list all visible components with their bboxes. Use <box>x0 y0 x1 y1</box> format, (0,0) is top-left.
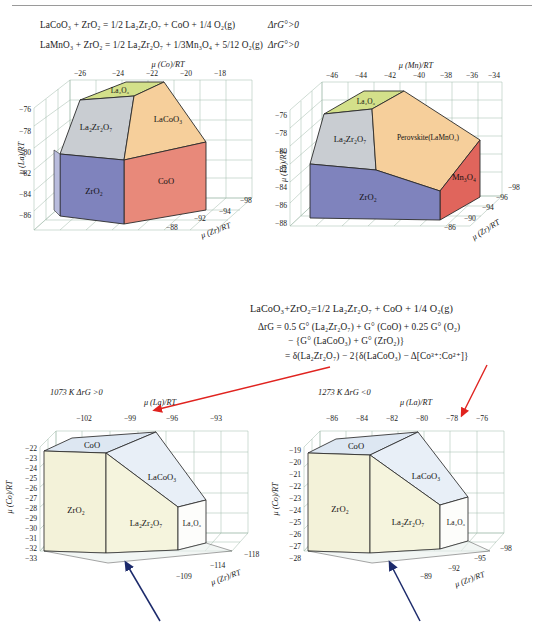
center-headline: LaCoO₃+ZrO₂=1/2 La₂Zr₂O₇ + CoO + 1/4 O₂(… <box>250 303 453 314</box>
svg-text:−99: −99 <box>124 414 136 423</box>
svg-text:−19: −19 <box>289 446 301 455</box>
svg-text:−80: −80 <box>19 148 31 157</box>
svg-text:−94: −94 <box>219 207 231 216</box>
phase-label-zro2: ZrO₂ <box>85 186 102 196</box>
svg-text:−40: −40 <box>413 71 425 80</box>
phase-label-la2zr2o7: La₂Zr₂O₇ <box>392 517 424 527</box>
svg-text:−28: −28 <box>289 554 301 563</box>
svg-text:−38: −38 <box>440 71 452 80</box>
svg-text:−31: −31 <box>25 534 37 543</box>
svg-text:−24: −24 <box>25 464 37 473</box>
chart-top-right: μ (Mn)/RT −46 −44 −42 −40 −38 −36 −34 μ … <box>276 58 538 283</box>
svg-text:−88: −88 <box>166 223 178 232</box>
svg-text:−44: −44 <box>355 71 367 80</box>
x-axis-ticks-top-left: −26 −24 −22 −20 −18 <box>74 69 226 78</box>
phase-label-la2o3: La₂O₃ <box>111 86 130 95</box>
phase-label-lacoo3: LaCoO₃ <box>148 472 176 482</box>
svg-text:−21: −21 <box>289 470 301 479</box>
x-axis-ticks-top-right: −46 −44 −42 −40 −38 −36 −34 <box>326 71 500 80</box>
svg-text:−78: −78 <box>275 129 287 138</box>
svg-text:−109: −109 <box>176 572 192 581</box>
reaction-1-gibbs: ΔrG°>0 <box>268 20 299 30</box>
phase-label-lacoo3: LaCoO₃ <box>154 114 182 124</box>
svg-text:−78: −78 <box>446 414 458 423</box>
svg-text:−98: −98 <box>240 196 252 205</box>
svg-text:−24: −24 <box>289 506 301 515</box>
svg-text:−86: −86 <box>19 211 31 220</box>
center-line-1: ΔrG = 0.5 G° (La₂Zr₂O₇) + G° (CoO) + 0.2… <box>258 322 460 332</box>
svg-text:−92: −92 <box>194 214 206 223</box>
svg-text:−96: −96 <box>166 414 178 423</box>
svg-text:−84: −84 <box>275 183 287 192</box>
svg-text:−96: −96 <box>496 193 508 202</box>
svg-text:−86: −86 <box>444 223 456 232</box>
svg-text:−76: −76 <box>275 111 287 120</box>
svg-text:−89: −89 <box>420 572 432 581</box>
svg-text:−23: −23 <box>25 454 37 463</box>
svg-text:−114: −114 <box>210 561 226 570</box>
y-axis-ticks-top-right: −76 −78 −80 −82 −84 −86 −88 <box>275 111 287 228</box>
svg-text:−102: −102 <box>76 414 92 423</box>
svg-text:−25: −25 <box>25 474 37 483</box>
svg-text:−27: −27 <box>25 494 37 503</box>
phase-label-lacoo3: LaCoO₃ <box>412 471 440 481</box>
navy-arrow-bottom-right <box>390 563 420 621</box>
phase-label-perovskite: Perovskite(LaMnO₃) <box>397 133 460 142</box>
x-axis-label-top-right: μ (Mn)/RT <box>398 61 435 70</box>
caption-bottom-left: 1073 K ΔrG >0 <box>50 388 103 397</box>
phase-label-mn3o4: Mn₃O₄ <box>452 172 476 182</box>
z-axis-label-top-left: μ (Zr)/RT <box>199 220 234 240</box>
svg-text:−78: −78 <box>19 127 31 136</box>
phase-label-zro2: ZrO₂ <box>331 504 348 514</box>
svg-text:−46: −46 <box>326 71 338 80</box>
svg-text:−32: −32 <box>25 544 37 553</box>
svg-text:−28: −28 <box>25 504 37 513</box>
phase-label-la2o3: La₂O₃ <box>183 519 202 528</box>
svg-text:−22: −22 <box>25 444 37 453</box>
svg-text:−25: −25 <box>289 518 301 527</box>
y-axis-label-bottom-right: μ (Co)/RT <box>271 481 280 516</box>
reaction-2-equation: LaMnO₃ + ZrO₂ = 1/2 La₂Zr₂O₇ + 1/3Mn₃O₄ … <box>40 40 263 50</box>
header-divider <box>12 5 532 6</box>
region-side-sliver <box>54 150 60 216</box>
center-line-2: − {G° (LaCoO₃) + G° (ZrO₂)} <box>288 336 404 346</box>
phase-label-la2zr2o7: La₂Zr₂O₇ <box>334 134 366 144</box>
phase-label-zro2: ZrO₂ <box>359 192 376 202</box>
svg-text:−80: −80 <box>416 414 428 423</box>
reaction-1-equation: LaCoO₃ + ZrO₂ = 1/2 La₂Zr₂O₇ + CoO + 1/4… <box>40 20 235 30</box>
svg-text:−94: −94 <box>482 203 494 212</box>
svg-text:−80: −80 <box>275 147 287 156</box>
svg-text:−22: −22 <box>289 482 301 491</box>
svg-text:−34: −34 <box>488 71 500 80</box>
x-axis-ticks-bottom-right: −86 −84 −82 −80 −78 −76 <box>326 414 488 423</box>
svg-text:−26: −26 <box>289 530 301 539</box>
svg-text:−76: −76 <box>476 414 488 423</box>
y-axis-ticks-bottom-right: −19 −20 −21 −22 −23 −24 −25 −26 −27 −28 <box>289 446 301 563</box>
phase-label-la2zr2o7: La₂Zr₂O₇ <box>130 518 162 528</box>
caption-bottom-right: 1273 K ΔrG <0 <box>318 388 371 397</box>
svg-text:−26: −26 <box>25 484 37 493</box>
x-axis-ticks-bottom-left: −102 −99 −96 −93 <box>76 414 222 423</box>
x-axis-label-top-left: μ (Co)/RT <box>151 60 186 69</box>
chart-top-left: μ (Co)/RT −26 −24 −22 −20 −18 μ (La)/RT … <box>14 58 270 283</box>
phase-label-coo: CoO <box>84 440 100 450</box>
svg-text:−23: −23 <box>289 494 301 503</box>
svg-text:−20: −20 <box>289 458 301 467</box>
svg-text:−30: −30 <box>25 524 37 533</box>
svg-text:−93: −93 <box>210 414 222 423</box>
region-zro2 <box>44 451 106 553</box>
svg-text:−118: −118 <box>244 550 260 559</box>
phase-label-la2o3: La₂O₃ <box>357 97 376 106</box>
svg-text:−27: −27 <box>289 542 301 551</box>
svg-text:−82: −82 <box>19 169 31 178</box>
y-axis-label-bottom-left: μ (Co)/RT <box>5 479 14 514</box>
navy-arrow-bottom-left <box>126 563 160 621</box>
svg-text:−42: −42 <box>384 71 396 80</box>
phase-label-coo: CoO <box>158 176 174 186</box>
y-axis-ticks-bottom-left: −22 −23 −24 −25 −26 −27 −28 −29 −30 −31 … <box>25 444 37 563</box>
phase-label-zro2: ZrO₂ <box>67 505 84 515</box>
svg-text:−92: −92 <box>448 564 460 573</box>
x-axis-label-bottom-left: μ (La)/RT <box>143 398 178 407</box>
svg-text:−22: −22 <box>146 69 158 78</box>
phase-label-la2zr2o7: La₂Zr₂O₇ <box>80 122 112 132</box>
